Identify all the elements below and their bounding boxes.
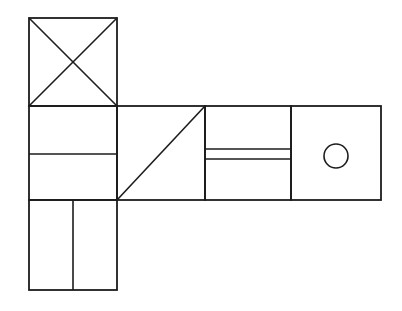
canvas-background [0, 0, 402, 311]
drawing-canvas [0, 0, 402, 311]
line-drawing [0, 0, 402, 311]
